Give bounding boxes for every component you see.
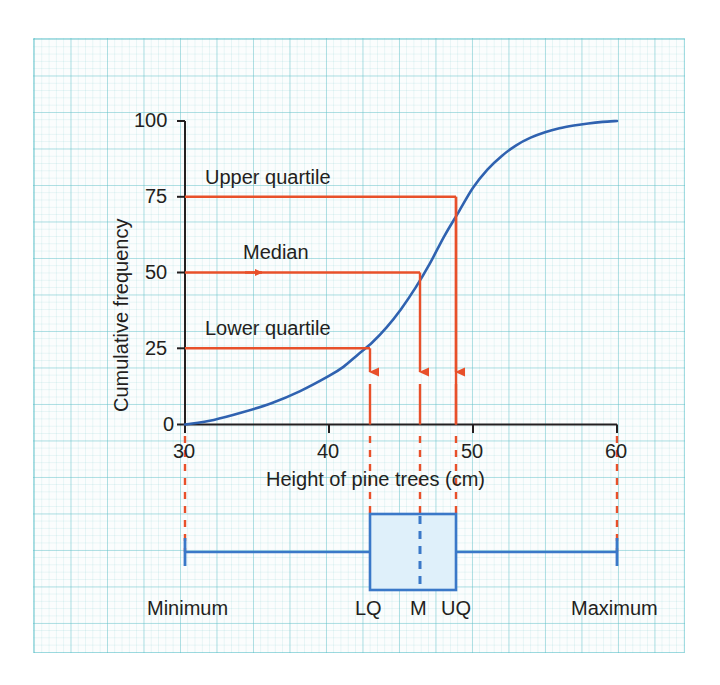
boxplot-label-m: M	[410, 597, 427, 620]
y-tick-label-100: 100	[134, 109, 167, 132]
x-axis-title: Height of pine trees (cm)	[266, 468, 485, 491]
boxplot-label-minimum: Minimum	[147, 597, 228, 620]
y-axis-title: Cumulative frequency	[110, 219, 133, 412]
median-label: Median	[243, 241, 309, 264]
box-plot-group	[185, 514, 617, 590]
x-tick-label-30: 30	[173, 440, 195, 463]
y-tick-label-75: 75	[145, 185, 167, 208]
upper-quartile-label: Upper quartile	[205, 166, 331, 189]
quartile-annotation-group	[185, 197, 456, 425]
boxplot-label-uq: UQ	[441, 597, 471, 620]
figure-canvas: 100 75 50 25 0 30 40 50 60 Height of pin…	[0, 0, 720, 685]
chart-graphics	[0, 0, 720, 685]
y-tick-label-25: 25	[145, 337, 167, 360]
y-tick-label-0: 0	[163, 413, 174, 436]
boxplot-label-lq: LQ	[355, 597, 382, 620]
lower-quartile-label: Lower quartile	[205, 317, 331, 340]
boxplot-box	[370, 514, 456, 590]
x-tick-label-60: 60	[605, 440, 627, 463]
boxplot-label-maximum: Maximum	[571, 597, 658, 620]
x-tick-label-50: 50	[461, 440, 483, 463]
y-tick-label-50: 50	[145, 261, 167, 284]
x-tick-label-40: 40	[317, 440, 339, 463]
